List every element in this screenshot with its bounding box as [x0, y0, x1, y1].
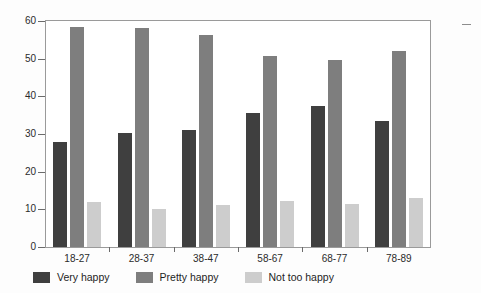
bar-very-happy-38-47 [182, 130, 196, 247]
legend-item-pretty-happy[interactable]: Pretty happy [136, 271, 219, 283]
bar-pretty-happy-78-89 [392, 51, 406, 247]
chart-legend: Very happyPretty happyNot too happy [33, 271, 360, 283]
legend-item-very-happy[interactable]: Very happy [33, 271, 110, 283]
bars-layer [0, 0, 481, 293]
bar-pretty-happy-28-37 [135, 28, 149, 247]
bar-not-too-happy-38-47 [216, 205, 230, 247]
page-edge-mark [462, 24, 471, 25]
bar-very-happy-58-67 [246, 113, 260, 247]
bar-very-happy-68-77 [311, 106, 325, 247]
legend-label: Not too happy [269, 271, 334, 283]
bar-very-happy-78-89 [375, 121, 389, 247]
legend-swatch-icon [136, 272, 153, 283]
bar-not-too-happy-78-89 [409, 198, 423, 247]
legend-swatch-icon [33, 272, 50, 283]
bar-not-too-happy-58-67 [280, 201, 294, 247]
legend-swatch-icon [245, 272, 262, 283]
bar-chart-figure: 6050403020100 18-2728-3738-4758-6768-777… [0, 0, 481, 293]
bar-pretty-happy-38-47 [199, 35, 213, 247]
legend-label: Pretty happy [160, 271, 219, 283]
bar-pretty-happy-68-77 [328, 60, 342, 247]
legend-item-not-too-happy[interactable]: Not too happy [245, 271, 334, 283]
bar-not-too-happy-28-37 [152, 209, 166, 247]
legend-label: Very happy [57, 271, 110, 283]
bar-pretty-happy-58-67 [263, 56, 277, 247]
bar-not-too-happy-18-27 [87, 202, 101, 247]
bar-very-happy-28-37 [118, 133, 132, 247]
bar-pretty-happy-18-27 [70, 27, 84, 247]
bar-not-too-happy-68-77 [345, 204, 359, 247]
chart-page: 6050403020100 18-2728-3738-4758-6768-777… [0, 0, 481, 293]
bar-very-happy-18-27 [53, 142, 67, 247]
